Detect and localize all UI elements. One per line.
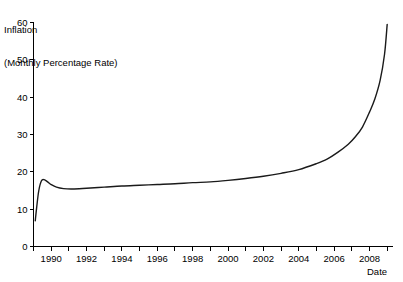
x-axis-tick-label: 2004 [288,253,309,264]
x-axis-tick-label: 1994 [111,253,132,264]
x-axis-tick-label: 2000 [217,253,238,264]
y-axis-tick-label: 40 [17,92,28,103]
x-axis-tick-label: 1998 [182,253,203,264]
y-axis-tick-label: 50 [17,54,28,65]
y-axis-tick-label: 60 [17,17,28,28]
plot-area: 0102030405060 19901992199419961998200020… [0,0,403,282]
x-axis: 1990199219941996199820002002200420062008 [34,247,393,264]
x-axis-tick-label: 2008 [359,253,380,264]
x-axis-tick-label: 2006 [324,253,345,264]
x-axis-tick-label: 1996 [147,253,168,264]
y-axis: 0102030405060 [17,17,34,252]
y-axis-tick-label: 30 [17,129,28,140]
y-axis-tick-label: 0 [22,241,27,252]
x-axis-tick-label: 1992 [76,253,97,264]
y-axis-tick-label: 20 [17,166,28,177]
inflation-line-chart: Inflation (Monthly Percentage Rate) Date… [0,0,403,282]
y-axis-tick-label: 10 [17,204,28,215]
x-axis-tick-label: 2002 [253,253,274,264]
data-series-group [35,24,387,220]
x-axis-tick-label: 1990 [41,253,62,264]
data-line-inflation [35,24,387,220]
